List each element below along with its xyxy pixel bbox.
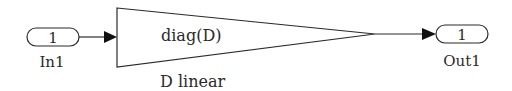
outport-number: 1 (457, 26, 467, 44)
gain-expression: diag(D) (161, 26, 221, 45)
gain-label: D linear (160, 72, 225, 91)
gain-triangle-shape (117, 8, 375, 67)
signal-line-in1-to-gain[interactable] (79, 31, 117, 43)
gain-block-d-linear[interactable]: diag(D) (117, 8, 375, 67)
signal-line-gain-to-out1[interactable] (375, 28, 436, 40)
arrowhead-icon (104, 31, 117, 43)
inport-block-in1[interactable]: 1 (27, 28, 79, 47)
inport-label: In1 (39, 53, 64, 71)
outport-block-out1[interactable]: 1 (436, 25, 488, 44)
outport-label: Out1 (443, 52, 481, 70)
block-diagram-canvas: 1 In1 diag(D) D linear 1 Out1 (0, 0, 512, 91)
inport-number: 1 (48, 29, 58, 47)
arrowhead-icon (422, 28, 436, 40)
